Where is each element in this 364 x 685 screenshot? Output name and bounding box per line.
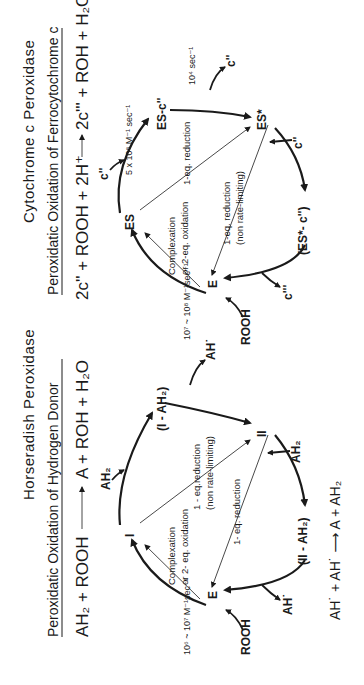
hrp-eq-lhs: AH₂ + ROOH xyxy=(73,536,92,637)
ccp-node-ES: ES xyxy=(123,214,137,230)
ccp-node-E: E xyxy=(206,280,220,288)
hrp-node-II: II xyxy=(255,430,269,437)
ccp-rate-constant-2: 5 x 10⁸ M⁻¹ sec⁻¹ xyxy=(124,105,134,175)
hrp-panel: Horseradish Peroxidase Peroxidatic Oxida… xyxy=(20,329,343,655)
ccp-rooh: ROOH xyxy=(239,309,253,345)
ccp-arc-ESc-to-ESstar xyxy=(170,110,250,117)
hrp-node-E: E xyxy=(206,591,220,599)
hrp-ah-out-1: AH˙ xyxy=(204,339,218,360)
hrp-arc-IAH2-to-II xyxy=(165,403,250,423)
hrp-ah-out-2: AH˙ xyxy=(281,594,295,615)
ccp-node-ESstar: ES* xyxy=(255,109,269,130)
hrp-arc-IIAH2-to-E xyxy=(225,560,305,590)
ccp-title: Cytochrome c Peroxidase xyxy=(20,40,37,223)
ccp-label-complexation: Complexation xyxy=(166,217,177,275)
hrp-arc-I-to-IAH2 xyxy=(119,413,152,525)
ccp-c-out-arrow-1 xyxy=(210,67,225,90)
ccp-equation: 2c'' + ROOH + 2H⁺ 2c''' + ROH + H₂O xyxy=(73,0,92,300)
ccp-label-reduction-nonlimiting: 1-eq. reduction xyxy=(221,182,232,245)
ccp-eq-rhs: 2c''' + ROH + H₂O xyxy=(73,0,92,130)
hrp-ah-out-arrow-1 xyxy=(190,360,205,385)
ccp-rate-constant-3: 10⁴ sec⁻¹ xyxy=(187,47,197,85)
hrp-eq-rhs: A + ROH + H₂O xyxy=(73,360,92,479)
ccp-eq-lhs: 2c'' + ROOH + 2H⁺ xyxy=(73,155,92,300)
ccp-node-ESstar-c: (ES*- c'') xyxy=(296,207,310,255)
hrp-ah2-in-arrow-1 xyxy=(112,470,124,480)
hrp-node-I: I xyxy=(123,534,137,537)
hrp-node-I-AH2: (I - AH₂) xyxy=(155,387,169,431)
hrp-equation: AH₂ + ROOH A + ROH + H₂O xyxy=(73,360,92,637)
hrp-label-reduction: 1- eq. reduction xyxy=(231,479,242,545)
ccp-c-in-2: c'' xyxy=(291,136,305,149)
ccp-label-nonlimiting: (non rate-limiting) xyxy=(234,171,245,245)
ccp-c-out-2: c''' xyxy=(281,285,295,300)
hrp-node-II-AH2: (II - AH₂) xyxy=(296,517,310,565)
ccp-node-ES-c: ES-c'' xyxy=(155,97,169,130)
hrp-ah2-in-1: AH₂ xyxy=(99,467,113,490)
ccp-c-in-1: c'' xyxy=(97,167,111,180)
hrp-ah-out-arrow-2 xyxy=(262,585,280,600)
hrp-label-2eq-oxidation: or 2- eq. oxidation xyxy=(179,509,190,585)
ccp-c-in-arrow-2 xyxy=(270,140,292,142)
ccp-c-out-arrow-2 xyxy=(262,273,280,287)
ccp-panel: Cytochrome c Peroxidase Peroxidatic Oxid… xyxy=(20,0,310,345)
hrp-title: Horseradish Peroxidase xyxy=(20,329,37,500)
ccp-subtitle: Peroxidatic Oxidation of Ferrocytochrome… xyxy=(45,27,61,295)
hrp-subtitle: Peroxidatic Oxidation of Hydrogen Donor xyxy=(45,382,61,637)
ccp-label-2eq-oxidation: or 2-eq. oxidation xyxy=(179,202,190,275)
rotated-figure: Horseradish Peroxidase Peroxidatic Oxida… xyxy=(0,0,364,685)
hrp-label-reduction-nonlimiting: 1 - eq.reduction xyxy=(191,444,202,510)
document-page: Horseradish Peroxidase Peroxidatic Oxida… xyxy=(0,0,364,685)
hrp-label-complexation: Complexation xyxy=(166,527,177,585)
ccp-label-reduction-top: 1-eq. reduction xyxy=(181,122,192,185)
ccp-c-out-1: c'' xyxy=(224,54,238,67)
ccp-arc-ESstarc-to-E xyxy=(225,245,305,278)
hrp-label-nonlimiting: (non rate-limiting) xyxy=(204,436,215,510)
hrp-ah2-in-2: AH₂ xyxy=(289,440,303,463)
hrp-footer-equation: AH˙ + AH˙ ⟶ A + AH₂ xyxy=(327,481,343,620)
hrp-rate-constant: 10⁶ ~ 10⁷ M⁻¹sec⁻¹ xyxy=(182,578,192,655)
hrp-rooh: ROOH xyxy=(239,619,253,655)
